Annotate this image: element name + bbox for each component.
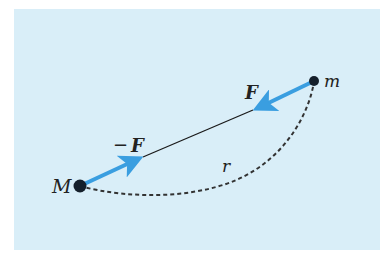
mass-small-dot bbox=[309, 76, 319, 86]
force-diagram: M m F − F r bbox=[0, 0, 386, 256]
connecting-line bbox=[143, 110, 253, 157]
label-distance: r bbox=[222, 156, 231, 176]
force-arrow-minus-f bbox=[82, 159, 138, 185]
force-arrow-f bbox=[258, 82, 312, 108]
label-big-mass: M bbox=[51, 175, 72, 197]
label-force-minus-f: F bbox=[130, 135, 145, 156]
label-small-mass: m bbox=[324, 71, 340, 91]
label-force-f: F bbox=[244, 82, 259, 103]
label-minus-sign: − bbox=[113, 134, 128, 155]
mass-big-dot bbox=[74, 180, 87, 193]
